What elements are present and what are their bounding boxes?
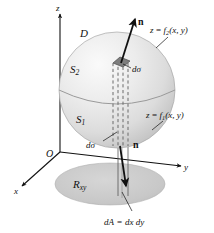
figure-container: z y x O Rxy n dσ [0, 0, 214, 233]
x-axis [22, 152, 60, 186]
z-axis-label: z [55, 3, 60, 13]
lower-surface-element-label: dσ [86, 140, 96, 150]
solid-region-label: D [79, 27, 88, 39]
projection-region-ellipse [55, 163, 165, 205]
y-axis-label: y [183, 162, 188, 172]
area-element-label: dA=dx dy [104, 217, 144, 227]
origin-label: O [46, 148, 53, 159]
upper-surface-equation-leader [156, 37, 168, 48]
lower-normal-label: n [133, 139, 139, 150]
solid-region-sphere [59, 32, 175, 148]
upper-surface-equation: z=f2(x, y) [149, 25, 188, 36]
upper-surface-element-label: dσ [132, 64, 142, 74]
upper-normal-label: n [138, 16, 144, 27]
divergence-theorem-diagram: z y x O Rxy n dσ [0, 0, 214, 233]
x-axis-label: x [13, 186, 18, 196]
